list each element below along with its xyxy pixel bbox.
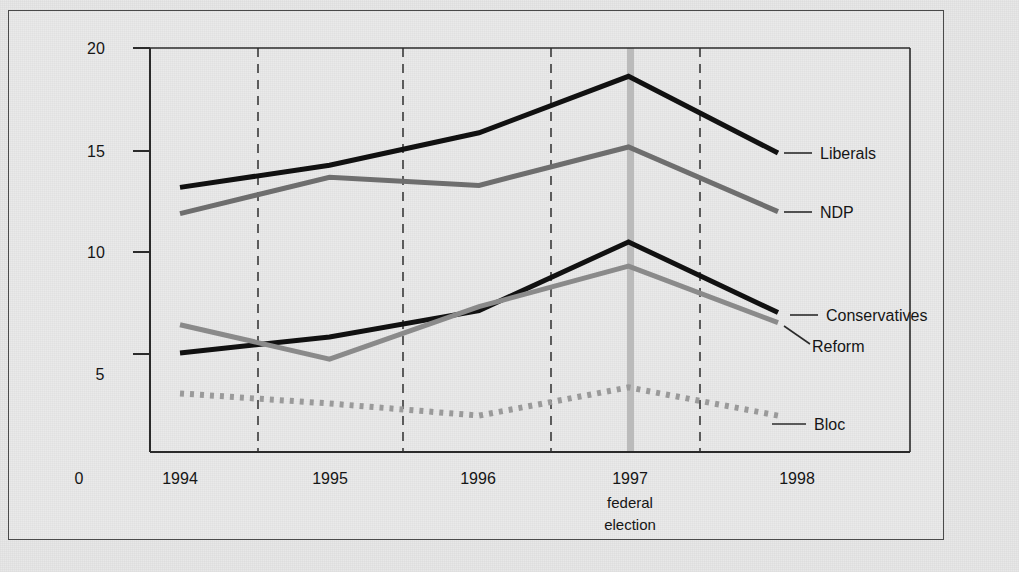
election-annotation-line2: election [604,516,656,533]
series-label-ndp: NDP [820,204,854,221]
y-tick-label-5: 5 [96,366,105,383]
series-label-bloc: Bloc [814,416,845,433]
x-tick-label-1998: 1998 [779,470,815,487]
series-layer [180,76,778,415]
series-line-conservatives [180,242,778,353]
series-line-bloc [180,387,778,415]
y-tick-marks [133,48,150,354]
x-tick-label-1994: 1994 [162,470,198,487]
series-label-reform: Reform [812,338,864,355]
axis-lines [150,48,910,452]
election-annotation-line1: federal [607,494,653,511]
x-tick-label-1996: 1996 [460,470,496,487]
x-tick-label-1997: 1997 [612,470,648,487]
election-band [627,48,634,452]
leader-line-reform [784,326,810,344]
series-line-ndp [180,147,778,214]
line-chart: 20 15 10 5 0 1994 1995 1996 1997 1998 fe… [0,0,1019,572]
y-tick-label-15: 15 [87,143,105,160]
figure-container: 20 15 10 5 0 1994 1995 1996 1997 1998 fe… [0,0,1019,572]
y-tick-label-20: 20 [87,40,105,57]
y-tick-label-10: 10 [87,244,105,261]
series-label-liberals: Liberals [820,145,876,162]
y-tick-label-0: 0 [75,470,84,487]
series-label-conservatives: Conservatives [826,307,927,324]
x-tick-label-1995: 1995 [312,470,348,487]
series-leader-lines [772,153,818,424]
